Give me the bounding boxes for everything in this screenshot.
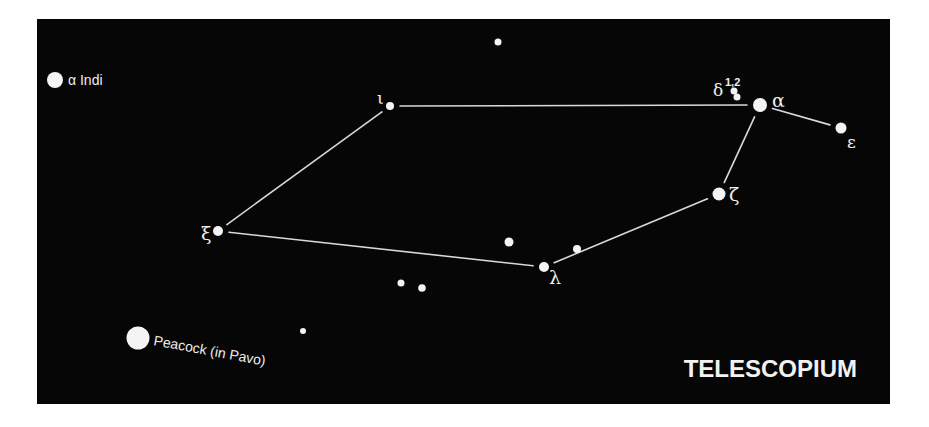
star-delta2 (734, 94, 741, 101)
constellation-title: TELESCOPIUM (684, 355, 857, 382)
star-delta1 (731, 88, 738, 95)
label-delta1: δ (713, 80, 723, 100)
star-lambda (539, 262, 549, 272)
label-alpha-indi: α Indi (68, 72, 103, 88)
star-unlabeled-near-zeta (573, 245, 581, 253)
star-alpha-indi (47, 72, 63, 88)
label-epsilon: ε (847, 132, 856, 152)
constellation-diagram: αδ1,2εζιξλ α Indi Peacock (in Pavo) TELE… (0, 0, 929, 427)
star-unlabeled-top (495, 39, 502, 46)
label-lambda: λ (549, 266, 561, 288)
label-iota: ι (377, 88, 384, 108)
star-unlabeled-mid (505, 238, 514, 247)
star-unlabeled-low (300, 328, 306, 334)
star-alpha (753, 98, 767, 112)
line-iota-alpha (400, 105, 747, 106)
star-zeta (713, 188, 726, 201)
label-zeta: ζ (729, 183, 739, 205)
label-alpha: α (772, 89, 785, 111)
star-unlabeled-pair-2 (418, 284, 426, 292)
star-epsilon (836, 123, 847, 134)
label-delta1-superscript: 1,2 (725, 76, 740, 88)
star-unlabeled-pair-1 (398, 280, 405, 287)
star-iota (386, 102, 394, 110)
star-peacock (127, 327, 150, 350)
star-xi (213, 226, 223, 236)
label-xi: ξ (201, 222, 211, 244)
